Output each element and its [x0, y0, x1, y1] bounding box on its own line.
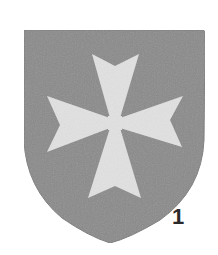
figure-number: 1	[172, 206, 184, 228]
shield-emblem	[0, 0, 218, 255]
